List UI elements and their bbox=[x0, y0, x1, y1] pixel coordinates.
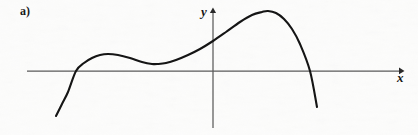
y-axis-arrowhead bbox=[210, 8, 216, 14]
panel-label: a) bbox=[20, 5, 30, 17]
y-axis bbox=[210, 8, 216, 129]
x-axis-label: x bbox=[397, 71, 404, 84]
x-axis bbox=[27, 68, 405, 75]
plot-canvas bbox=[0, 0, 418, 135]
function-curve bbox=[56, 11, 317, 116]
y-axis-label: y bbox=[201, 5, 207, 18]
figure-panel: a) y x bbox=[0, 0, 418, 135]
